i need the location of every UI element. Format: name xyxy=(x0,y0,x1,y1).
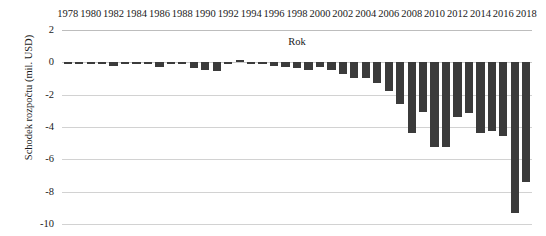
bar xyxy=(408,62,416,132)
x-tick-label: 1986 xyxy=(149,8,170,19)
bar xyxy=(213,62,221,71)
x-tick-label: 1994 xyxy=(241,8,262,19)
bar xyxy=(419,62,427,112)
y-tick-label: -4 xyxy=(45,122,54,132)
bar xyxy=(132,62,140,63)
bar xyxy=(385,62,393,90)
y-axis-tick-labels: 20-2-4-6-8-10 xyxy=(0,0,62,236)
x-tick-label: 2004 xyxy=(355,8,376,19)
x-axis-tick-labels: 1978198019821984198619881990199219941996… xyxy=(62,8,532,22)
bar xyxy=(190,62,198,68)
bar xyxy=(64,62,72,63)
x-tick-label: 1978 xyxy=(57,8,78,19)
bar xyxy=(121,62,129,63)
x-tick-label: 2006 xyxy=(378,8,399,19)
bar xyxy=(465,62,473,113)
bar-series xyxy=(62,30,532,224)
bar xyxy=(258,62,266,63)
y-tick-label: -8 xyxy=(45,187,54,197)
x-tick-label: 2018 xyxy=(516,8,537,19)
y-tick-label: 2 xyxy=(49,25,54,35)
bar xyxy=(178,62,186,63)
y-tick-label: -10 xyxy=(40,219,54,229)
bar xyxy=(499,62,507,136)
bar xyxy=(362,62,370,78)
x-tick-label: 2016 xyxy=(493,8,514,19)
bar xyxy=(430,62,438,147)
x-tick-label: 1996 xyxy=(264,8,285,19)
x-tick-label: 1990 xyxy=(195,8,216,19)
bar xyxy=(109,62,117,66)
bar xyxy=(327,62,335,69)
bar xyxy=(201,62,209,69)
bar xyxy=(144,62,152,63)
bar xyxy=(396,62,404,103)
x-tick-label: 2000 xyxy=(309,8,330,19)
x-tick-label: 2014 xyxy=(470,8,491,19)
bar xyxy=(293,62,301,68)
x-tick-label: 2008 xyxy=(401,8,422,19)
bar xyxy=(236,60,244,62)
bar-chart: Schodek rozpočtu (mil. USD) 20-2-4-6-8-1… xyxy=(0,0,546,236)
x-axis-title: Rok xyxy=(62,36,532,48)
y-tick-label: 0 xyxy=(49,57,54,67)
bar xyxy=(442,62,450,147)
y-tick-label: -6 xyxy=(45,154,54,164)
x-tick-label: 1980 xyxy=(80,8,101,19)
bar xyxy=(281,62,289,67)
bar xyxy=(350,62,358,77)
bar xyxy=(270,62,278,66)
x-tick-label: 2010 xyxy=(424,8,445,19)
y-tick-label: -2 xyxy=(45,90,54,100)
x-tick-label: 2002 xyxy=(332,8,353,19)
gridline xyxy=(62,224,532,225)
bar xyxy=(304,62,312,69)
bar xyxy=(488,62,496,131)
bar xyxy=(98,62,106,63)
x-tick-label: 1998 xyxy=(287,8,308,19)
bar xyxy=(373,62,381,83)
bar xyxy=(87,62,95,64)
bar xyxy=(522,62,530,182)
x-tick-label: 2012 xyxy=(447,8,468,19)
bar xyxy=(476,62,484,132)
bar xyxy=(224,62,232,63)
x-tick-label: 1988 xyxy=(172,8,193,19)
bar xyxy=(167,62,175,63)
x-tick-label: 1984 xyxy=(126,8,147,19)
plot-area xyxy=(62,30,532,224)
bar xyxy=(339,62,347,73)
bar xyxy=(247,62,255,63)
x-tick-label: 1982 xyxy=(103,8,124,19)
bar xyxy=(155,62,163,67)
x-tick-label: 1992 xyxy=(218,8,239,19)
bar xyxy=(453,62,461,117)
bar xyxy=(511,62,519,212)
bar xyxy=(75,62,83,63)
bar xyxy=(316,62,324,67)
